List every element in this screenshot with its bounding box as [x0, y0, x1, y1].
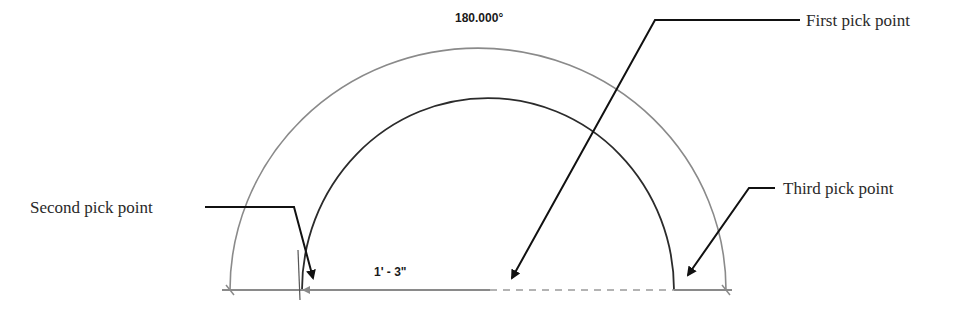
callout-third-pick-point: Third pick point — [783, 180, 893, 197]
leader-third-pick — [688, 188, 775, 275]
callout-second-pick-point: Second pick point — [30, 199, 153, 216]
arc-diagram — [0, 0, 980, 320]
radius-dimension-text: 1' - 3" — [374, 266, 407, 278]
angle-dimension-text: 180.000° — [455, 12, 503, 24]
leader-second-pick — [205, 207, 313, 278]
leader-first-pick — [512, 20, 800, 278]
outer-dimension-arc — [230, 48, 726, 290]
extension-line — [298, 250, 300, 300]
inner-arc — [302, 98, 674, 290]
dimension-arrowhead-left — [302, 286, 310, 294]
callout-first-pick-point: First pick point — [806, 12, 910, 29]
